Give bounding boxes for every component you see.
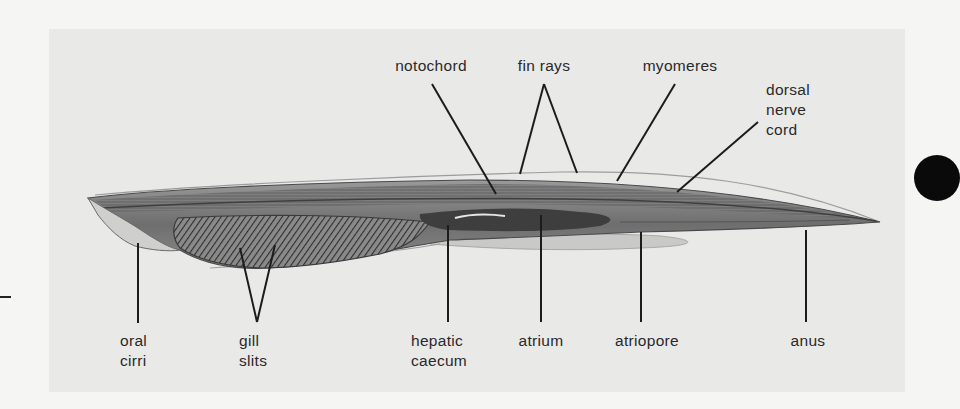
label-atrium: atrium	[519, 331, 564, 351]
leader-notochord	[432, 84, 496, 194]
label-gill-slits: gill slits	[239, 331, 267, 371]
margin-tick-mark	[0, 296, 11, 298]
leader-dorsal-nerve-cord	[677, 122, 758, 192]
marker-dot	[914, 155, 960, 201]
label-myomeres: myomeres	[643, 56, 718, 76]
label-atriopore: atriopore	[615, 331, 679, 351]
leader-myomeres	[617, 84, 675, 181]
label-anus: anus	[791, 331, 826, 351]
label-oral-cirri: oral cirri	[120, 331, 147, 371]
leader-fin-ray-1	[520, 84, 544, 174]
label-dorsal-nerve-cord: dorsal nerve cord	[766, 80, 810, 140]
leader-fin-ray-2	[544, 84, 577, 173]
lancelet-body	[88, 172, 880, 269]
label-notochord: notochord	[395, 56, 467, 76]
label-hepatic-caecum: hepatic caecum	[411, 331, 467, 371]
label-fin-rays: fin rays	[518, 56, 570, 76]
